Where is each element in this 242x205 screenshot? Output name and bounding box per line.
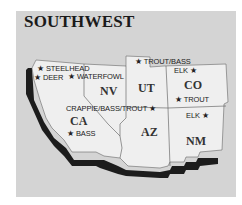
star-icon: ★ xyxy=(149,104,156,113)
star-icon: ★ xyxy=(135,57,142,66)
marker-trout-co: ★ TROUT xyxy=(175,95,209,104)
marker-label: DEER xyxy=(43,73,63,82)
star-icon: ★ xyxy=(68,72,75,81)
marker-waterfowl: ★ WATERFOWL xyxy=(68,72,124,81)
star-icon: ★ xyxy=(34,73,41,82)
star-icon: ★ xyxy=(37,64,44,73)
state-label-ca: CA xyxy=(70,114,87,129)
state-label-co: CO xyxy=(184,78,202,93)
marker-label: ELK xyxy=(186,111,200,120)
marker-label: CRAPPIE/BASS/TROUT xyxy=(66,104,147,113)
state-label-nm: NM xyxy=(186,134,206,149)
marker-label: WATERFOWL xyxy=(77,72,124,81)
marker-elk-nm: ELK ★ xyxy=(186,111,209,120)
star-icon: ★ xyxy=(175,95,182,104)
marker-label: BASS xyxy=(76,129,96,138)
marker-trout-bass: ★ TROUT/BASS xyxy=(135,57,191,66)
state-label-ut: UT xyxy=(138,81,155,96)
marker-elk-co: ELK ★ xyxy=(174,66,197,75)
state-label-az: AZ xyxy=(141,125,158,140)
marker-label: TROUT/BASS xyxy=(144,57,191,66)
marker-crappie-bass-trout: CRAPPIE/BASS/TROUT ★ xyxy=(66,104,156,113)
marker-label: ELK xyxy=(174,66,188,75)
star-icon: ★ xyxy=(67,129,74,138)
state-label-nv: NV xyxy=(100,84,117,99)
marker-label: TROUT xyxy=(184,95,209,104)
star-icon: ★ xyxy=(202,111,209,120)
star-icon: ★ xyxy=(190,66,197,75)
marker-deer: ★ DEER xyxy=(34,73,63,82)
marker-bass: ★ BASS xyxy=(67,129,96,138)
